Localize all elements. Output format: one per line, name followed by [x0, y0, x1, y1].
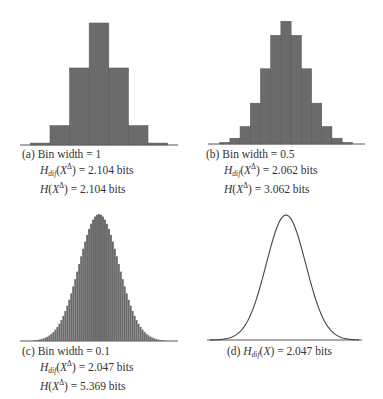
histogram-bar — [33, 340, 35, 341]
histogram-bar — [271, 35, 281, 144]
histogram-bar — [146, 334, 148, 341]
histogram-bar — [291, 35, 301, 144]
histogram-bar — [144, 332, 146, 341]
histogram-bar — [142, 330, 144, 341]
histogram-bar — [332, 138, 342, 144]
histogram-bar — [30, 143, 50, 145]
caption-b-bin-width: Bin width = 0.5 — [222, 148, 294, 160]
histogram-bar — [126, 293, 128, 341]
gaussian-pdf-curve — [190, 200, 383, 346]
caption-d-hdif: = 2.047 bits — [277, 345, 332, 357]
histogram-bar — [118, 264, 120, 341]
panel-d: (d) Hdif(X) = 2.047 bits — [190, 200, 383, 399]
histogram-bar — [120, 272, 122, 341]
caption-a-h: = 2.104 bits — [71, 183, 126, 195]
panel-c: (c) Bin width = 0.1 Hdif(XΔ) = 2.047 bit… — [0, 200, 190, 399]
histogram-bar — [43, 338, 45, 341]
histogram-bar — [35, 340, 37, 341]
histogram-bar — [96, 215, 98, 341]
histogram-bar — [163, 340, 165, 341]
histogram-bar — [261, 69, 271, 144]
histogram-bar — [220, 143, 230, 144]
histogram-bar — [78, 264, 80, 341]
histogram-bar — [104, 220, 106, 341]
histogram-bar — [148, 143, 168, 145]
histogram-bar — [122, 279, 124, 341]
histogram-bar — [124, 286, 126, 341]
caption-a-hdif: = 2.104 bits — [79, 164, 134, 176]
histogram-bar — [106, 224, 108, 341]
histogram-bar — [157, 340, 159, 341]
histogram-bar — [49, 335, 51, 341]
histogram-bar — [140, 327, 142, 341]
histogram-bar — [84, 242, 86, 341]
pdf-curve — [210, 215, 359, 340]
histogram-bar — [128, 126, 148, 145]
caption-c-h: = 5.369 bits — [71, 380, 126, 392]
histogram-bar — [109, 68, 129, 145]
histogram-bar — [102, 217, 104, 341]
caption-b-hdif: = 2.062 bits — [263, 164, 318, 176]
histogram-bar — [89, 23, 109, 145]
histogram-bar — [37, 340, 39, 341]
caption-b-label: (b) — [206, 148, 219, 160]
caption-d: (d) Hdif(X) = 2.047 bits — [227, 345, 332, 362]
histogram-bar — [39, 340, 41, 341]
panel-b: (b) Bin width = 0.5 Hdif(XΔ) = 2.062 bit… — [190, 0, 383, 200]
histogram-bar — [47, 337, 49, 341]
histogram-bar — [148, 335, 150, 341]
caption-a-label: (a) — [22, 148, 35, 160]
histogram-bar — [155, 339, 157, 341]
histogram-bar — [342, 143, 352, 144]
histogram-bar — [68, 300, 70, 341]
histogram-bar — [88, 229, 90, 341]
caption-b-h: = 3.062 bits — [255, 183, 310, 195]
histogram-bar — [138, 324, 140, 341]
panel-a: (a) Bin width = 1 Hdif(XΔ) = 2.104 bits … — [0, 0, 190, 200]
histogram-bar — [52, 332, 54, 341]
histogram-bar — [74, 279, 76, 341]
histogram-bar — [136, 320, 138, 341]
histogram-bar — [112, 242, 114, 341]
histogram-bin-width-0-1 — [0, 200, 190, 346]
histogram-bar — [72, 286, 74, 341]
histogram-bar — [98, 214, 100, 341]
histogram-bar — [92, 220, 94, 341]
histogram-bar — [76, 272, 78, 341]
histogram-bar — [301, 69, 311, 144]
histogram-bar — [250, 103, 260, 144]
histogram-bin-width-1 — [0, 0, 190, 150]
histogram-bar — [128, 300, 130, 341]
caption-a: (a) Bin width = 1 Hdif(XΔ) = 2.104 bits … — [22, 148, 133, 196]
histogram-bar — [86, 235, 88, 341]
histogram-bar — [230, 138, 240, 144]
histogram-bar — [149, 337, 151, 341]
histogram-bar — [281, 21, 291, 144]
histogram-bar — [50, 126, 70, 145]
histogram-bar — [50, 334, 52, 341]
caption-c-hdif: = 2.047 bits — [79, 361, 134, 373]
histogram-bar — [54, 330, 56, 341]
caption-b: (b) Bin width = 0.5 Hdif(XΔ) = 2.062 bit… — [206, 148, 317, 196]
histogram-bar — [70, 293, 72, 341]
caption-a-bin-width: Bin width = 1 — [38, 148, 102, 160]
histogram-bar — [64, 311, 66, 341]
histogram-bar — [94, 217, 96, 341]
histogram-bar — [132, 311, 134, 341]
histogram-bar — [110, 235, 112, 341]
histogram-bar — [240, 127, 250, 144]
histogram-bar — [153, 338, 155, 341]
caption-c: (c) Bin width = 0.1 Hdif(XΔ) = 2.047 bit… — [22, 345, 133, 393]
histogram-bin-width-0-5 — [190, 0, 383, 150]
histogram-bar — [312, 103, 322, 144]
histogram-bar — [58, 324, 60, 341]
histogram-bar — [130, 306, 132, 341]
histogram-bar — [151, 338, 153, 341]
histogram-bar — [116, 256, 118, 341]
histogram-bar — [45, 338, 47, 341]
histogram-bar — [80, 256, 82, 341]
histogram-bar — [82, 249, 84, 341]
caption-d-label: (d) — [227, 345, 240, 357]
histogram-bar — [90, 224, 92, 341]
histogram-bar — [114, 249, 116, 341]
